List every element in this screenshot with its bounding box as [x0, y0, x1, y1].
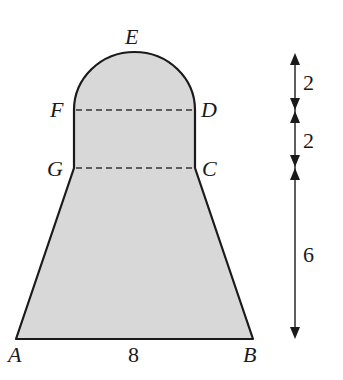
label-A: A — [6, 342, 22, 367]
rectangle-height-label: 2 — [303, 128, 314, 153]
vertical-dimension-line — [290, 53, 300, 339]
semicircle-height-label: 2 — [303, 70, 314, 95]
base-length-label: 8 — [128, 342, 139, 367]
label-G: G — [47, 156, 63, 181]
label-C: C — [202, 156, 217, 181]
composite-shape-diagram: E F D G C A B 8 2 2 6 — [0, 0, 343, 380]
trapezoid-height-label: 6 — [303, 242, 314, 267]
label-D: D — [200, 97, 217, 122]
label-E: E — [124, 24, 139, 49]
label-F: F — [49, 97, 64, 122]
shaded-shape — [16, 52, 253, 339]
label-B: B — [243, 342, 256, 367]
